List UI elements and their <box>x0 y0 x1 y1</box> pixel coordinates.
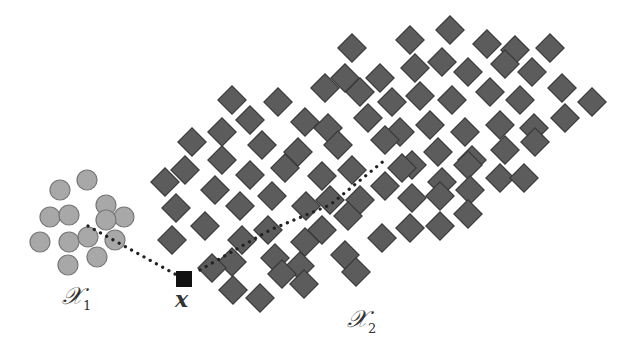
diamond-point <box>486 111 514 139</box>
diamond-point <box>218 86 246 114</box>
diamond-point <box>162 194 190 222</box>
cluster2-label-sub: 2 <box>368 321 376 336</box>
diamond-point <box>454 58 482 86</box>
circle-point <box>40 207 60 227</box>
circle-point <box>58 255 78 275</box>
diamond-point <box>398 184 426 212</box>
diamond-point <box>438 86 466 114</box>
diamond-point <box>264 88 292 116</box>
diamond-point <box>506 86 534 114</box>
circle-point <box>30 232 50 252</box>
diamond-point <box>368 224 396 252</box>
diamond-point <box>426 212 454 240</box>
query-label-text: x <box>175 286 188 312</box>
cluster1-label-main: 𝒳 <box>62 282 83 310</box>
diamond-point <box>208 146 236 174</box>
diamond-point <box>396 26 424 54</box>
diamond-point <box>219 276 247 304</box>
diamond-point <box>236 106 264 134</box>
diamond-point <box>456 176 484 204</box>
diamond-point <box>338 156 366 184</box>
diamond-point <box>436 16 464 44</box>
circle-point <box>59 205 79 225</box>
diamond-point <box>354 104 382 132</box>
diamond-point <box>158 226 186 254</box>
diamond-point <box>428 48 456 76</box>
diamond-point <box>246 284 274 312</box>
diamond-point <box>178 128 206 156</box>
diamond-point <box>518 58 546 86</box>
query-square <box>176 271 192 287</box>
diamond-point <box>454 200 482 228</box>
diamond-point <box>201 176 229 204</box>
cluster2-diamonds <box>151 16 606 312</box>
diamond-point <box>248 131 276 159</box>
diamond-point <box>406 82 434 110</box>
diamond-point <box>451 118 479 146</box>
diamond-point <box>292 192 320 220</box>
query-point-x <box>176 271 192 287</box>
diagram-canvas <box>0 0 639 348</box>
circle-point <box>50 180 70 200</box>
cluster1-label-sub: 1 <box>83 298 91 313</box>
diamond-point <box>226 192 254 220</box>
circle-point <box>114 207 134 227</box>
diamond-point <box>371 172 399 200</box>
diamond-point <box>378 88 406 116</box>
cluster1-label: 𝒳1 <box>62 282 91 313</box>
diamond-point <box>473 30 501 58</box>
diamond-point <box>491 136 519 164</box>
diamond-point <box>578 88 606 116</box>
circle-point <box>59 232 79 252</box>
circle-point <box>96 210 116 230</box>
diamond-point <box>208 118 236 146</box>
diamond-point <box>191 212 219 240</box>
diamond-point <box>338 34 366 62</box>
diamond-point <box>476 78 504 106</box>
diamond-point <box>308 162 336 190</box>
diamond-point <box>551 104 579 132</box>
circle-point <box>87 247 107 267</box>
diamond-point <box>401 54 429 82</box>
circle-point <box>77 170 97 190</box>
diamond-point <box>416 111 444 139</box>
diamond-point <box>548 74 576 102</box>
diamond-point <box>424 138 452 166</box>
diamond-point <box>258 182 286 210</box>
diamond-point <box>396 214 424 242</box>
diamond-point <box>510 164 538 192</box>
circle-point <box>105 230 125 250</box>
diamond-point <box>236 161 264 189</box>
cluster1-circles <box>30 170 134 275</box>
diamond-point <box>291 108 319 136</box>
diamond-point <box>536 34 564 62</box>
cluster2-label-main: 𝒳 <box>347 305 368 333</box>
query-label: x <box>175 286 188 312</box>
cluster2-label: 𝒳2 <box>347 305 376 336</box>
